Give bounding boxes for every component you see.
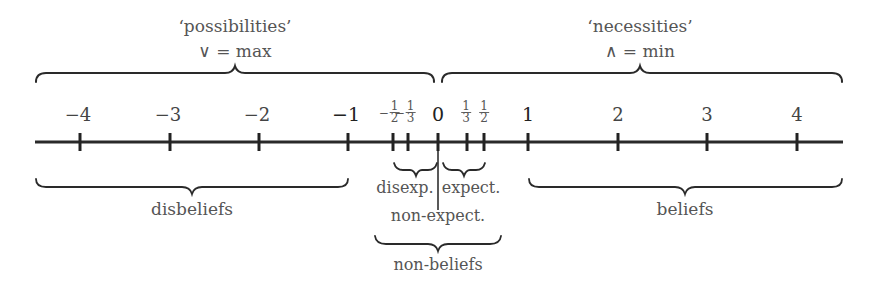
disbeliefs-label: disbeliefs [151,199,233,219]
tick-label-minus-4: −4 [65,104,92,125]
brace-beliefs [529,179,842,194]
brace-expect [443,163,485,176]
expect-label: expect. [442,178,501,197]
brace-disbeliefs [36,179,348,194]
tick-label-minus-1: −1 [332,103,360,125]
brace-possibilities [36,66,434,82]
number-line-diagram [0,0,875,286]
tick-label-half: 12 [479,101,489,124]
brace-non-beliefs [375,236,501,251]
tick-label-minus-third: − 13 [395,101,416,124]
non-expect-label: non-expect. [391,206,485,225]
brace-necessities [442,66,842,82]
non-beliefs-label: non-beliefs [393,255,482,274]
tick-label-zero: 0 [432,103,444,125]
necessities-label: ‘necessities’ [587,16,692,36]
tick-label-minus-2: −2 [244,104,271,125]
tick-label-2: 2 [612,104,623,125]
beliefs-label: beliefs [657,199,714,219]
possibilities-label: ‘possibilities’ [178,16,291,36]
disexp-label: disexp. [376,178,433,197]
tick-label-third: 13 [461,101,471,124]
tick-label-1: 1 [522,103,534,125]
min-formula: ∧ = min [605,41,675,61]
tick-label-4: 4 [791,104,802,125]
tick-label-3: 3 [701,104,712,125]
tick-label-minus-3: −3 [155,104,182,125]
max-formula: ∨ = max [198,41,271,61]
brace-disexp [394,163,437,176]
